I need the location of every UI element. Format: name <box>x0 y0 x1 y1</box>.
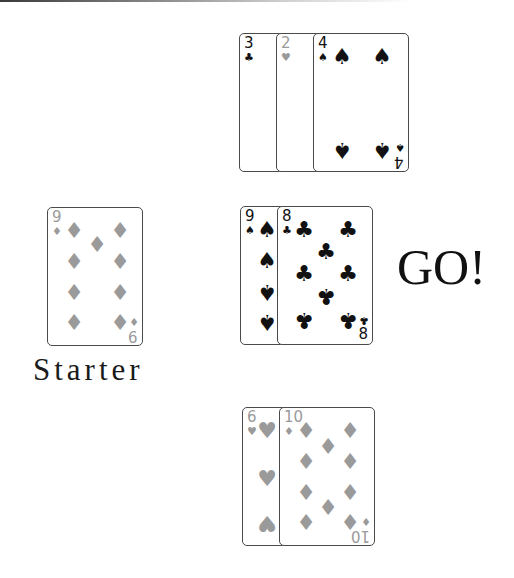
spade-icon: ♠ <box>370 139 394 161</box>
spade-icon: ♠ <box>255 219 279 241</box>
spade-icon: ♠ <box>370 46 394 68</box>
diamond-icon: ♦ <box>316 436 340 458</box>
diamond-icon: ♦ <box>108 220 132 242</box>
diamond-icon: ♦ <box>62 282 86 304</box>
card-4-spades[interactable]: 4 ♠ ♠ ♠ ♠ ♠ ♠ 4 <box>313 33 409 172</box>
card-rank: 9 <box>245 209 255 224</box>
diamond-icon: ♦ <box>316 497 340 519</box>
club-icon: ♣ <box>292 263 316 285</box>
card-rank: 9 <box>128 328 138 343</box>
diamond-icon: ♦ <box>129 316 139 327</box>
spade-icon: ♠ <box>318 52 328 63</box>
club-icon: ♣ <box>292 309 316 331</box>
spade-icon: ♠ <box>395 142 405 153</box>
club-icon: ♣ <box>282 225 292 236</box>
card-8-clubs[interactable]: 8 ♣ ♣ ♣ ♣ ♣ ♣ ♣ ♣ ♣ ♣ 8 <box>277 206 373 345</box>
diamond-icon: ♦ <box>338 482 362 504</box>
club-icon: ♣ <box>314 285 338 307</box>
diamond-icon: ♦ <box>62 312 86 334</box>
diamond-icon: ♦ <box>284 426 294 437</box>
spade-icon: ♠ <box>245 225 255 236</box>
diamond-icon: ♦ <box>294 420 318 442</box>
go-message: GO! <box>397 238 486 296</box>
window-top-edge <box>0 0 514 2</box>
club-icon: ♣ <box>314 241 338 263</box>
club-icon: ♣ <box>336 263 360 285</box>
heart-icon: ♥ <box>255 420 279 442</box>
heart-icon: ♥ <box>255 512 279 534</box>
club-icon: ♣ <box>336 219 360 241</box>
diamond-icon: ♦ <box>62 251 86 273</box>
diamond-icon: ♦ <box>52 226 62 237</box>
bottom-caption-clipped <box>190 568 490 578</box>
card-rank: 9 <box>52 210 62 225</box>
spade-icon: ♠ <box>330 139 354 161</box>
club-icon: ♣ <box>336 309 360 331</box>
card-10-diamonds[interactable]: 10 ♦ ♦ ♦ ♦ ♦ ♦ ♦ ♦ ♦ ♦ ♦ ♦ 10 <box>279 407 375 546</box>
card-rank: 4 <box>394 154 404 169</box>
heart-icon: ♥ <box>281 52 291 63</box>
heart-icon: ♥ <box>255 468 279 490</box>
diamond-icon: ♦ <box>108 251 132 273</box>
card-rank: 10 <box>351 528 370 543</box>
card-rank: 4 <box>318 36 328 51</box>
diamond-icon: ♦ <box>294 512 318 534</box>
card-rank: 2 <box>281 36 291 51</box>
starter-card-9-diamonds[interactable]: 9 ♦ ♦ ♦ ♦ ♦ ♦ ♦ ♦ ♦ ♦ ♦ 9 <box>47 207 143 346</box>
diamond-icon: ♦ <box>294 482 318 504</box>
diamond-icon: ♦ <box>85 234 109 256</box>
diamond-icon: ♦ <box>294 451 318 473</box>
diamond-icon: ♦ <box>361 516 371 527</box>
spade-icon: ♠ <box>255 250 279 272</box>
diamond-icon: ♦ <box>338 451 362 473</box>
card-rank: 8 <box>282 209 292 224</box>
spade-icon: ♠ <box>255 311 279 333</box>
starter-label: Starter <box>33 352 163 388</box>
diamond-icon: ♦ <box>108 282 132 304</box>
club-icon: ♣ <box>292 219 316 241</box>
spade-icon: ♠ <box>255 281 279 303</box>
card-rank: 3 <box>244 36 254 51</box>
club-icon: ♣ <box>244 52 254 63</box>
diamond-icon: ♦ <box>62 220 86 242</box>
diamond-icon: ♦ <box>338 420 362 442</box>
card-rank: 8 <box>358 327 368 342</box>
spade-icon: ♠ <box>330 46 354 68</box>
